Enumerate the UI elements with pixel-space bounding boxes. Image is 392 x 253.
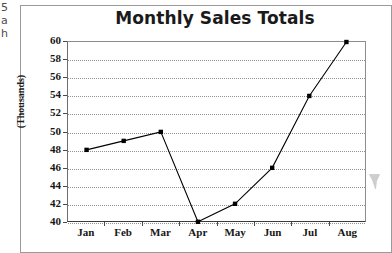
- y-tick-label: 40: [37, 216, 61, 227]
- scan-smudge-icon: [368, 172, 381, 192]
- y-tick-mark: [63, 204, 67, 205]
- x-tick-label: Jul: [291, 226, 328, 238]
- margin-fragment: 5: [1, 2, 8, 13]
- y-tick-mark: [63, 95, 67, 96]
- y-tick-mark: [63, 150, 67, 151]
- y-tick-label: 50: [37, 126, 61, 137]
- x-tick-label: Apr: [179, 226, 216, 238]
- x-tick-mark: [254, 222, 255, 226]
- plot-inner: [68, 42, 365, 221]
- y-tick-label: 58: [37, 53, 61, 64]
- x-tick-mark: [291, 222, 292, 226]
- y-tick-label: 42: [37, 198, 61, 209]
- y-tick-mark: [63, 41, 67, 42]
- chart-title: Monthly Sales Totals: [60, 8, 370, 28]
- series-line: [87, 42, 347, 222]
- plot-area: [67, 41, 366, 222]
- data-point-marker: [233, 202, 237, 206]
- y-tick-mark: [63, 168, 67, 169]
- data-point-marker: [121, 139, 125, 143]
- y-tick-mark: [63, 77, 67, 78]
- data-point-marker: [344, 40, 348, 44]
- x-tick-mark: [179, 222, 180, 226]
- x-tick-label: Aug: [329, 226, 366, 238]
- y-tick-mark: [63, 222, 67, 223]
- data-point-marker: [307, 94, 311, 98]
- data-point-marker: [196, 220, 200, 224]
- margin-fragment: h: [1, 28, 8, 39]
- y-tick-mark: [63, 113, 67, 114]
- x-tick-mark: [104, 222, 105, 226]
- data-point-marker: [159, 130, 163, 134]
- y-axis-label: (Thousands): [15, 66, 26, 138]
- line-series: [68, 42, 365, 222]
- y-tick-mark: [63, 132, 67, 133]
- data-point-marker: [270, 166, 274, 170]
- y-tick-label: 60: [37, 35, 61, 46]
- y-tick-label: 44: [37, 180, 61, 191]
- x-tick-label: Jan: [67, 226, 104, 238]
- y-tick-label: 48: [37, 144, 61, 155]
- y-tick-mark: [63, 59, 67, 60]
- margin-fragment: a: [1, 15, 8, 26]
- x-tick-label: Feb: [104, 226, 141, 238]
- y-tick-label: 54: [37, 89, 61, 100]
- y-tick-label: 46: [37, 162, 61, 173]
- data-point-marker: [84, 148, 88, 152]
- y-tick-label: 52: [37, 107, 61, 118]
- x-tick-label: Jun: [254, 226, 291, 238]
- y-tick-label: 56: [37, 71, 61, 82]
- x-tick-label: May: [217, 226, 254, 238]
- page-margin-fragments: 5 a h: [0, 0, 18, 46]
- x-tick-mark: [217, 222, 218, 226]
- x-tick-label: Mar: [142, 226, 179, 238]
- x-tick-mark: [142, 222, 143, 226]
- y-tick-mark: [63, 186, 67, 187]
- x-tick-mark: [329, 222, 330, 226]
